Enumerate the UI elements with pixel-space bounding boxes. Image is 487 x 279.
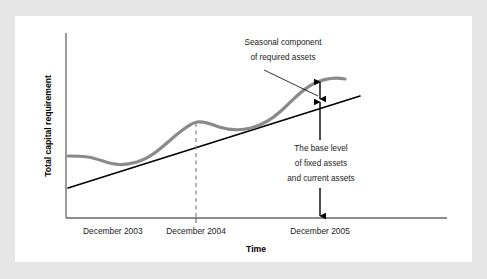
seasonal-annotation-leader-line: [264, 70, 318, 96]
y-axis-title: Total capital requirement: [43, 75, 53, 177]
base-annotation-line2: of fixed assets: [295, 159, 347, 168]
x-tick-label-december-2005: December 2005: [290, 226, 350, 236]
screenshot-root: Seasonal component of required assets Th…: [0, 0, 487, 279]
base-annotation-line1: The base level: [294, 144, 347, 153]
chart-card: Seasonal component of required assets Th…: [15, 16, 472, 262]
x-tick-label-december-2003: December 2003: [83, 226, 143, 236]
seasonal-annotation-line2: of required assets: [250, 53, 315, 62]
capital-requirement-chart: Seasonal component of required assets Th…: [15, 16, 472, 262]
base-level-annotation: The base level of fixed assets and curre…: [265, 140, 377, 188]
x-axis-title: Time: [246, 244, 266, 254]
seasonal-annotation-line1: Seasonal component: [245, 38, 323, 47]
x-tick-label-december-2004: December 2004: [166, 226, 226, 236]
base-annotation-line3: and current assets: [287, 174, 354, 183]
